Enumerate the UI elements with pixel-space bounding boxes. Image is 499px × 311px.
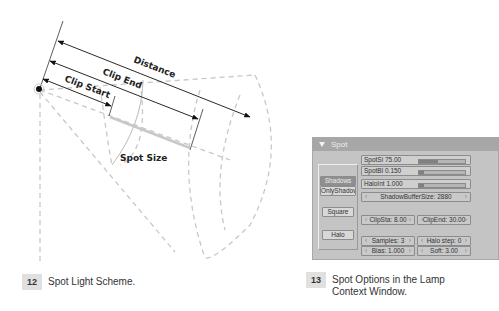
caption-text: Spot Light Scheme.	[48, 274, 135, 288]
shadow-buffer-size-field[interactable]: ShadowBufferSize: 2880	[361, 192, 471, 202]
caption-number: 13	[306, 272, 326, 288]
spot-options-panel: Spot Shadows OnlyShadow Square Halo Spot…	[312, 137, 499, 260]
caption-text-line2: Context Window.	[332, 286, 407, 297]
halo-intensity-slider[interactable]: HaloInt 1.000	[361, 179, 471, 189]
samples-field[interactable]: Samples: 3	[361, 236, 415, 246]
only-shadow-toggle[interactable]: OnlyShadow	[320, 186, 356, 196]
shadows-toggle[interactable]: Shadows	[320, 176, 356, 186]
halo-toggle[interactable]: Halo	[322, 230, 354, 240]
clip-start-field[interactable]: ClipSta: 8.00	[361, 215, 415, 225]
bias-field[interactable]: Bias: 1.000	[361, 246, 415, 256]
figure-13-caption: 13 Spot Options in the Lamp Context Wind…	[306, 272, 445, 298]
caption-text-line1: Spot Options in the Lamp	[332, 274, 445, 285]
label-spot-size: Spot Size	[120, 153, 167, 163]
halo-step-field[interactable]: Halo step: 0	[417, 236, 471, 246]
cone-outline	[40, 75, 271, 265]
spot-light-scheme-diagram: Distance Clip End Clip Start Spot Size	[0, 0, 310, 270]
label-clip-end: Clip End	[101, 67, 143, 91]
label-distance: Distance	[132, 55, 177, 80]
spot-size-slider[interactable]: SpotSi 75.00	[361, 155, 471, 165]
clip-end-field[interactable]: ClipEnd: 30.00	[417, 215, 471, 225]
spot-blend-slider[interactable]: SpotBl 0.150	[361, 166, 471, 176]
figure-12-caption: 12 Spot Light Scheme.	[22, 274, 135, 290]
caption-number: 12	[22, 274, 42, 290]
square-toggle[interactable]: Square	[322, 207, 354, 217]
label-clip-start: Clip Start	[63, 74, 112, 101]
clip-range-bar	[110, 117, 190, 148]
soft-field[interactable]: Soft: 3.00	[417, 246, 471, 256]
panel-title: Spot	[331, 138, 347, 151]
panel-header[interactable]: Spot	[313, 138, 498, 151]
collapse-triangle-icon[interactable]	[319, 142, 325, 147]
